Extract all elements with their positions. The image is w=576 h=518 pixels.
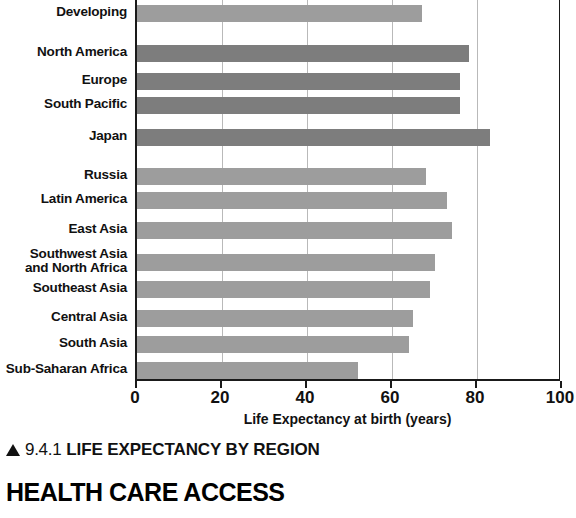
x-axis-title: Life Expectancy at birth (years) bbox=[135, 411, 560, 427]
x-tick-label-20: 20 bbox=[211, 388, 230, 408]
bar bbox=[137, 336, 409, 353]
bar-series bbox=[137, 0, 559, 379]
chart-plot-area bbox=[135, 0, 560, 381]
category-label: East Asia bbox=[69, 222, 127, 236]
x-tick-label-60: 60 bbox=[381, 388, 400, 408]
bar-row bbox=[137, 310, 413, 327]
bar bbox=[137, 73, 460, 90]
category-label: Japan bbox=[89, 129, 127, 143]
x-tick-mark-0 bbox=[135, 381, 137, 388]
bar bbox=[137, 97, 460, 114]
x-tick-mark-40 bbox=[305, 381, 307, 388]
figure-number: 9.4.1 bbox=[25, 440, 61, 460]
bar bbox=[137, 222, 452, 239]
bar-row bbox=[137, 362, 358, 379]
category-label: North America bbox=[37, 45, 127, 59]
category-label: Europe bbox=[82, 73, 127, 87]
bar bbox=[137, 129, 490, 146]
category-label: South Pacific bbox=[44, 97, 127, 111]
bar-row bbox=[137, 5, 422, 22]
bar bbox=[137, 254, 435, 271]
category-label: Central Asia bbox=[51, 310, 127, 324]
bar-row bbox=[137, 129, 490, 146]
bar-row bbox=[137, 168, 426, 185]
x-tick-mark-80 bbox=[475, 381, 477, 388]
bar-row bbox=[137, 97, 460, 114]
category-axis-labels: DevelopingNorth AmericaEuropeSouth Pacif… bbox=[0, 0, 132, 381]
x-tick-label-80: 80 bbox=[466, 388, 485, 408]
bar-row bbox=[137, 192, 447, 209]
bar-row bbox=[137, 73, 460, 90]
bar bbox=[137, 281, 430, 298]
category-label: Russia bbox=[84, 168, 127, 182]
bar bbox=[137, 168, 426, 185]
x-tick-label-40: 40 bbox=[296, 388, 315, 408]
category-label: South Asia bbox=[59, 336, 127, 350]
bar-row bbox=[137, 281, 430, 298]
category-label: Developing bbox=[56, 5, 127, 19]
x-tick-mark-20 bbox=[220, 381, 222, 388]
section-heading: HEALTH CARE ACCESS bbox=[6, 478, 285, 507]
life-expectancy-bar-chart: DevelopingNorth AmericaEuropeSouth Pacif… bbox=[0, 0, 576, 432]
figure-caption: 9.4.1 LIFE EXPECTANCY BY REGION bbox=[6, 440, 320, 460]
x-tick-mark-60 bbox=[390, 381, 392, 388]
triangle-up-icon bbox=[6, 444, 20, 456]
bar bbox=[137, 310, 413, 327]
x-tick-label-0: 0 bbox=[130, 388, 139, 408]
bar bbox=[137, 45, 469, 62]
bar bbox=[137, 5, 422, 22]
category-label: Sub-Saharan Africa bbox=[6, 362, 127, 376]
bar-row bbox=[137, 45, 469, 62]
bar bbox=[137, 362, 358, 379]
x-tick-label-100: 100 bbox=[546, 388, 574, 408]
bar-row bbox=[137, 336, 409, 353]
bar-row bbox=[137, 222, 452, 239]
figure-title: LIFE EXPECTANCY BY REGION bbox=[66, 440, 320, 460]
bar bbox=[137, 192, 447, 209]
x-tick-mark-100 bbox=[560, 381, 562, 388]
category-label: Southwest Asia and North Africa bbox=[25, 247, 127, 275]
category-label: Latin America bbox=[41, 192, 127, 206]
bar-row bbox=[137, 254, 435, 271]
category-label: Southeast Asia bbox=[33, 281, 127, 295]
